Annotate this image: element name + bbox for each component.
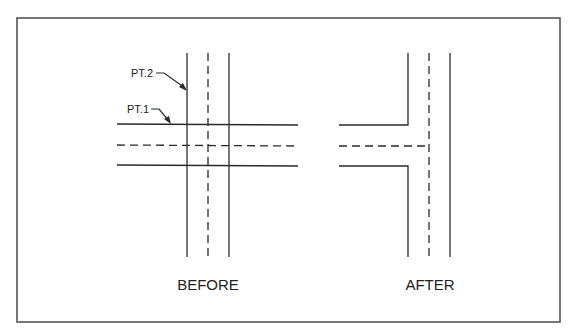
- arrowhead-icon: [164, 116, 171, 124]
- before-drawing: [117, 53, 298, 257]
- after-upper-left-corner-line: [339, 53, 408, 125]
- callout-pt2: PT.2: [131, 67, 187, 91]
- after-label: AFTER: [405, 276, 454, 293]
- before-horizontal-top-line: [117, 124, 298, 125]
- callout-pt1: PT.1: [127, 103, 171, 124]
- after-drawing: [339, 53, 450, 257]
- frame-border: [17, 18, 560, 322]
- after-lower-left-corner-line: [339, 166, 408, 257]
- diagram-canvas: PT.2 PT.1 BEFORE AFTER: [0, 0, 574, 334]
- before-horizontal-bottom-line: [117, 165, 298, 166]
- callout-pt1-label: PT.1: [127, 103, 149, 115]
- before-label: BEFORE: [177, 276, 239, 293]
- callout-pt2-label: PT.2: [131, 67, 153, 79]
